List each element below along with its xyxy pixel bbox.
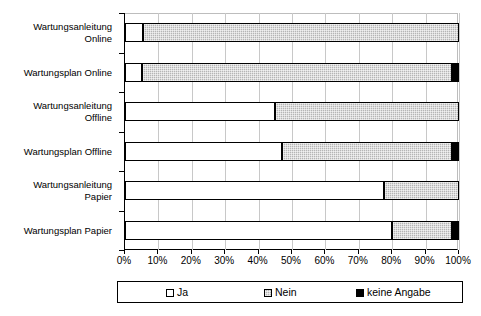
y-tick-mark-5 — [119, 211, 124, 212]
gridline-10 — [158, 13, 159, 250]
bar-segment-nein-5 — [392, 221, 452, 240]
bar-row-4 — [125, 181, 459, 200]
gridline-80 — [392, 13, 393, 250]
bar-row-5 — [125, 221, 459, 240]
bar-row-3 — [125, 142, 459, 161]
gridline-90 — [426, 13, 427, 250]
y-axis-category-labels: Wartungsanleitung OnlineWartungsplan Onl… — [0, 13, 118, 250]
y-tick-mark-2 — [119, 92, 124, 93]
gridline-40 — [259, 13, 260, 250]
legend-label-keine-angabe: keine Angabe — [367, 286, 431, 299]
x-tick-mark-6 — [324, 250, 325, 254]
legend-item-keine-angabe: keine Angabe — [356, 286, 431, 299]
gridline-50 — [292, 13, 293, 250]
gridline-30 — [225, 13, 226, 250]
gridline-60 — [325, 13, 326, 250]
y-tick-mark-4 — [119, 171, 124, 172]
bar-segment-ja-5 — [125, 221, 392, 240]
x-tick-mark-10 — [458, 250, 459, 254]
bar-segment-nein-3 — [282, 142, 452, 161]
bar-row-2 — [125, 102, 459, 121]
y-tick-mark-1 — [119, 53, 124, 54]
y-tick-mark-0 — [119, 13, 124, 14]
bar-segment-nein-0 — [143, 23, 459, 42]
y-axis-label-4: Wartungsanleitung Papier — [0, 179, 112, 202]
y-axis-label-0: Wartungsanleitung Online — [0, 21, 112, 44]
x-tick-mark-8 — [391, 250, 392, 254]
legend-label-ja: Ja — [177, 286, 188, 299]
bar-segment-ja-4 — [125, 181, 384, 200]
bar-row-0 — [125, 23, 459, 42]
legend-item-ja: Ja — [166, 286, 188, 299]
x-tick-mark-2 — [191, 250, 192, 254]
plot-area — [124, 13, 459, 250]
x-tick-label-10: 100% — [438, 255, 478, 267]
legend-label-nein: Nein — [275, 286, 297, 299]
gridline-70 — [359, 13, 360, 250]
x-tick-mark-4 — [258, 250, 259, 254]
bar-segment-ja-1 — [125, 63, 142, 82]
x-tick-mark-0 — [124, 250, 125, 254]
bar-segment-nein-2 — [275, 102, 459, 121]
legend-swatch-keine-angabe-icon — [356, 289, 364, 297]
bar-segment-keine-angabe-1 — [452, 63, 459, 82]
x-tick-mark-9 — [425, 250, 426, 254]
stacked-bar-chart: Wartungsanleitung OnlineWartungsplan Onl… — [0, 0, 481, 316]
x-tick-mark-1 — [157, 250, 158, 254]
bar-segment-ja-3 — [125, 142, 282, 161]
gridline-100 — [459, 13, 460, 250]
legend-item-nein: Nein — [264, 286, 297, 299]
bar-segment-nein-1 — [142, 63, 452, 82]
chart-legend: Ja Nein keine Angabe — [117, 281, 463, 303]
y-axis-label-2: Wartungsanleitung Offline — [0, 100, 112, 123]
y-tick-mark-6 — [119, 250, 124, 251]
bar-segment-ja-0 — [125, 23, 143, 42]
x-tick-mark-7 — [358, 250, 359, 254]
y-tick-mark-3 — [119, 132, 124, 133]
y-axis-label-5: Wartungsplan Papier — [0, 225, 112, 237]
y-axis-label-1: Wartungsplan Online — [0, 67, 112, 79]
legend-swatch-nein-icon — [264, 289, 272, 297]
bar-segment-ja-2 — [125, 102, 275, 121]
bar-segment-nein-4 — [384, 181, 459, 200]
y-axis-label-3: Wartungsplan Offline — [0, 146, 112, 158]
legend-swatch-ja-icon — [166, 289, 174, 297]
bar-row-1 — [125, 63, 459, 82]
bar-segment-keine-angabe-5 — [452, 221, 459, 240]
gridline-20 — [192, 13, 193, 250]
x-tick-mark-3 — [224, 250, 225, 254]
bar-segment-keine-angabe-3 — [452, 142, 459, 161]
x-tick-mark-5 — [291, 250, 292, 254]
